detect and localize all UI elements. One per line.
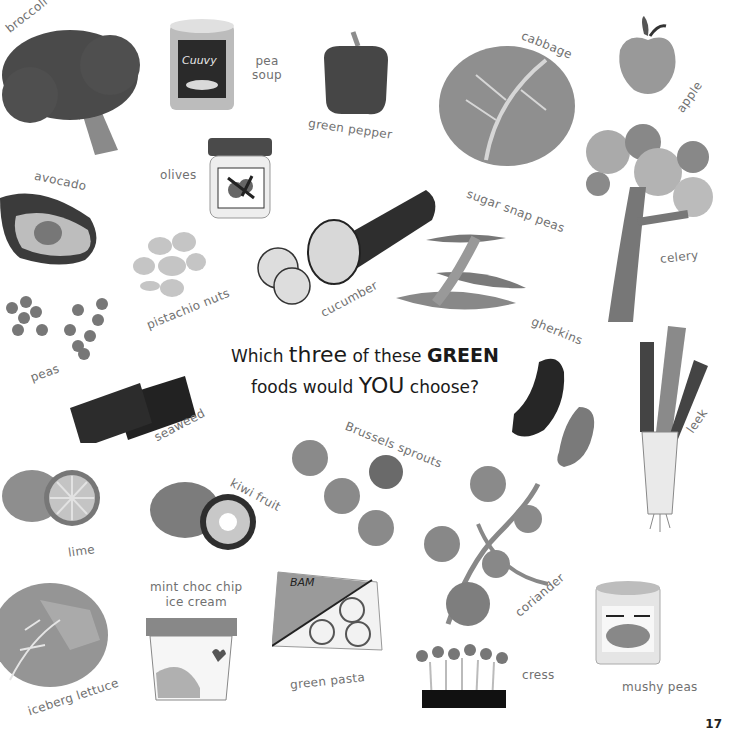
label-pea-soup: peasoup <box>252 54 282 82</box>
seaweed-illustration <box>70 368 200 447</box>
label-mint-choc-chip: mint choc chipice cream <box>150 580 242 610</box>
iceberg-lettuce-illustration <box>0 580 112 694</box>
ice-cream-tub-icon <box>144 618 239 703</box>
question-text: choose? <box>404 377 479 397</box>
cabbage-icon <box>436 40 578 168</box>
label-cress: cress <box>522 668 555 682</box>
can-label: Cuuvy <box>182 54 217 67</box>
gherkins-illustration <box>504 352 604 474</box>
lettuce-icon <box>0 580 112 690</box>
avocado-illustration <box>0 188 105 272</box>
question-emphasis-green: GREEN <box>427 344 499 366</box>
question-line-1: Which three of these GREEN <box>215 340 515 371</box>
pepper-icon <box>320 28 392 118</box>
pistachio-illustration <box>132 230 212 306</box>
celery-illustration <box>578 112 718 336</box>
apple-illustration <box>614 14 682 103</box>
celery-icon <box>578 112 718 332</box>
pea-soup-illustration: Cuuvy <box>168 18 236 117</box>
gherkin-icon <box>504 352 604 470</box>
question-text: foods would <box>251 377 359 397</box>
question-text: Which <box>231 346 289 366</box>
question-emphasis-you: YOU <box>359 373 405 398</box>
label-lime: lime <box>67 542 96 560</box>
label-line: ice cream <box>165 595 227 609</box>
pasta-pack-icon <box>272 570 384 655</box>
question-text: of these <box>347 346 427 366</box>
lime-illustration <box>2 468 102 532</box>
cabbage-illustration <box>436 40 578 172</box>
cress-illustration <box>410 642 515 716</box>
broccoli-illustration <box>0 20 145 164</box>
peas-icon <box>4 296 109 362</box>
avocado-icon <box>0 188 105 268</box>
lime-icon <box>2 468 102 528</box>
apple-icon <box>614 14 682 99</box>
green-pasta-illustration: BAM <box>272 570 384 659</box>
green-pepper-illustration <box>320 28 392 122</box>
mushy-peas-can-icon <box>594 580 662 668</box>
broccoli-icon <box>0 20 145 160</box>
ice-cream-illustration <box>144 618 239 707</box>
page-number: 17 <box>705 717 722 731</box>
coriander-illustration <box>418 464 558 638</box>
cress-icon <box>410 642 515 712</box>
coriander-icon <box>418 464 558 634</box>
question-heading: Which three of these GREEN foods would Y… <box>215 340 515 402</box>
question-emphasis-three: three <box>289 342 347 367</box>
label-green-pasta: green pasta <box>289 670 365 692</box>
peas-illustration <box>4 296 109 366</box>
label-line: mint choc chip <box>150 580 242 594</box>
question-line-2: foods would YOU choose? <box>215 371 515 402</box>
label-mushy-peas: mushy peas <box>622 680 698 694</box>
cucumber-illustration <box>256 180 441 309</box>
pack-label: BAM <box>290 576 315 589</box>
mushy-peas-illustration <box>594 580 662 672</box>
label-olives: olives <box>160 168 197 182</box>
cucumber-icon <box>256 180 441 305</box>
label-gherkins: gherkins <box>529 314 584 347</box>
pistachio-icon <box>132 230 212 302</box>
